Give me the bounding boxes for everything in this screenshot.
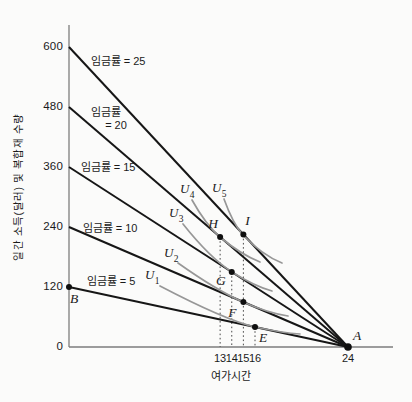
point-label-E: E (259, 330, 267, 346)
point-dot-G (229, 269, 235, 275)
u-letter: U (169, 205, 178, 220)
u-label-4: U4 (180, 182, 194, 200)
y-tick-360: 360 (33, 160, 63, 173)
u-subscript: 5 (222, 189, 227, 199)
y-tick-480: 480 (33, 100, 63, 113)
wage-label-25: 임금률 = 25 (91, 55, 146, 68)
wage-label-20: 임금률= 20 (91, 106, 127, 131)
u-label-3: U3 (169, 206, 183, 224)
point-label-F: F (228, 305, 236, 321)
x-tick-15: 15 (237, 352, 249, 365)
point-dot-A (344, 343, 352, 351)
wage-label-10: 임금률 = 10 (83, 222, 138, 235)
u-letter: U (180, 181, 189, 196)
u-letter: U (212, 180, 221, 195)
x-tick-13: 13 (214, 352, 226, 365)
point-dot-I (240, 232, 246, 238)
y-tick-240: 240 (33, 220, 63, 233)
wage-label-line1: 임금률 (91, 106, 121, 118)
u-label-1: U1 (145, 268, 159, 286)
u-subscript: 3 (179, 214, 184, 224)
u-letter: U (164, 245, 173, 260)
labor-leisure-chart: 일간 소득(달러) 및 복합재 수량 여가시간 0120240360480600… (0, 0, 412, 402)
u-label-5: U5 (212, 181, 226, 199)
budget-line-wage-25 (69, 47, 348, 347)
wage-label-5: 임금률 = 5 (87, 275, 136, 288)
wage-label-15: 임금률 = 15 (81, 161, 136, 174)
u-subscript: 2 (174, 254, 179, 264)
y-axis-label: 일간 소득(달러) 및 복합재 수량 (10, 113, 25, 261)
point-dot-B (66, 284, 72, 290)
u-subscript: 4 (190, 190, 195, 200)
x-tick-14: 14 (226, 352, 238, 365)
budget-line-wage-5 (69, 287, 348, 347)
u-letter: U (145, 267, 154, 282)
point-dot-H (217, 234, 223, 240)
x-axis-label: 여가시간 (211, 370, 251, 383)
point-label-G: G (216, 273, 226, 289)
point-label-A: A (353, 328, 361, 344)
wage-label-line2: = 20 (105, 119, 127, 132)
budget-line-wage-15 (69, 167, 348, 347)
point-dot-F (240, 299, 246, 305)
y-tick-0: 0 (33, 340, 63, 353)
u-subscript: 1 (155, 276, 160, 286)
y-tick-120: 120 (33, 280, 63, 293)
y-tick-600: 600 (33, 40, 63, 53)
point-label-B: B (70, 291, 78, 307)
point-dot-E (252, 324, 258, 330)
x-tick-24: 24 (342, 352, 354, 365)
u-label-2: U2 (164, 246, 178, 264)
x-tick-16: 16 (249, 352, 261, 365)
point-label-I: I (245, 213, 250, 229)
point-label-H: H (208, 216, 218, 232)
indifference-curve-u5 (224, 199, 282, 263)
